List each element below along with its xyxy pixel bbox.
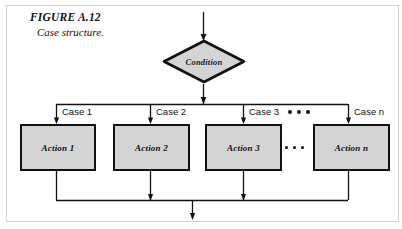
- case-ellipsis-dots: [288, 110, 310, 114]
- connector-lines: [0, 0, 402, 229]
- arrowhead-merge-2: [148, 194, 153, 201]
- decision-node: Condition: [162, 39, 246, 84]
- case-label-1: Case 1: [62, 106, 92, 117]
- action-label-n: Action n: [335, 143, 368, 153]
- case-label-3: Case 3: [249, 106, 279, 117]
- action-ellipsis-dots: [285, 146, 304, 149]
- figure-a12-case-structure: FIGURE A.12 Case structure.: [0, 0, 402, 229]
- action-label-3: Action 3: [227, 143, 260, 153]
- action-label-1: Action 1: [42, 143, 75, 153]
- action-box-3: Action 3: [205, 124, 282, 171]
- arrowhead-merge-3: [241, 194, 246, 201]
- action-box-n: Action n: [313, 124, 390, 171]
- decision-label: Condition: [162, 39, 246, 84]
- case-label-n: Case n: [354, 106, 384, 117]
- arrowhead-decision-exit: [201, 97, 207, 104]
- case-label-2: Case 2: [156, 106, 186, 117]
- action-box-1: Action 1: [20, 124, 96, 171]
- action-box-2: Action 2: [113, 124, 190, 171]
- arrowhead-exit: [190, 213, 195, 220]
- action-label-2: Action 2: [135, 143, 168, 153]
